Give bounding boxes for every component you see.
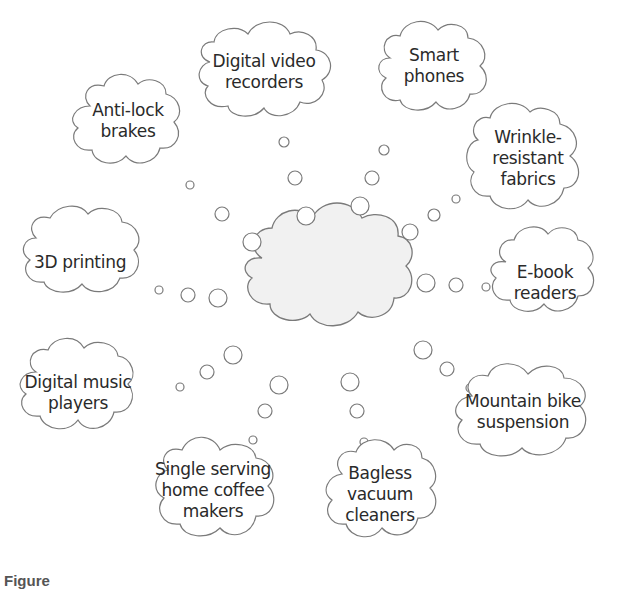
label-line: resistant: [492, 148, 563, 169]
bubble-trail-anti-lock: [186, 181, 261, 251]
label-mountain-bike-suspension: Mountain bike suspension: [465, 391, 581, 433]
label-line: vacuum: [345, 484, 415, 505]
label-line: Mountain bike: [465, 391, 581, 412]
label-line: Digital music: [25, 372, 132, 393]
label-line: cleaners: [345, 505, 415, 526]
label-line: Single serving: [155, 459, 271, 480]
label-line: fabrics: [492, 169, 563, 190]
label-wrinkle-resistant-fabrics: Wrinkle- resistant fabrics: [492, 127, 563, 190]
label-line: E-book: [514, 262, 577, 283]
bubble-trail-music: [176, 346, 242, 391]
label-line: Wrinkle-: [492, 127, 563, 148]
bubble-trail-bagless: [341, 373, 368, 446]
label-line: players: [25, 393, 132, 414]
label-line: brakes: [92, 121, 164, 142]
label-smart-phones: Smart phones: [404, 45, 464, 87]
label-bagless-vacuum-cleaners: Bagless vacuum cleaners: [345, 463, 415, 526]
label-3d-printing: 3D printing: [34, 252, 126, 273]
label-line: makers: [155, 501, 271, 522]
bubble-trail-smart-phones: [351, 145, 389, 215]
label-line: Smart: [404, 45, 464, 66]
bubble-trail-mountain-bike: [414, 341, 474, 392]
label-line: 3D printing: [34, 252, 126, 273]
label-single-serving-coffee-makers: Single serving home coffee makers: [155, 459, 271, 522]
bubble-trail-wrinkle: [402, 195, 460, 240]
cloud-3d-printing: [23, 206, 138, 292]
bubble-trail-coffee: [249, 376, 288, 444]
label-line: Digital video: [212, 51, 315, 72]
center-cloud: [245, 203, 412, 326]
label-line: suspension: [465, 412, 581, 433]
label-line: Anti-lock: [92, 100, 164, 121]
bubble-trail-3d-printing: [155, 286, 227, 307]
label-anti-lock-brakes: Anti-lock brakes: [92, 100, 164, 142]
figure-caption: Figure: [4, 572, 50, 589]
label-e-book-readers: E-book readers: [514, 262, 577, 304]
label-line: readers: [514, 283, 577, 304]
label-line: phones: [404, 66, 464, 87]
label-line: home coffee: [155, 480, 271, 501]
bubble-trail-e-book: [417, 274, 490, 292]
label-digital-music-players: Digital music players: [25, 372, 132, 414]
label-digital-video-recorders: Digital video recorders: [212, 51, 315, 93]
label-line: recorders: [212, 72, 315, 93]
label-line: Bagless: [345, 463, 415, 484]
